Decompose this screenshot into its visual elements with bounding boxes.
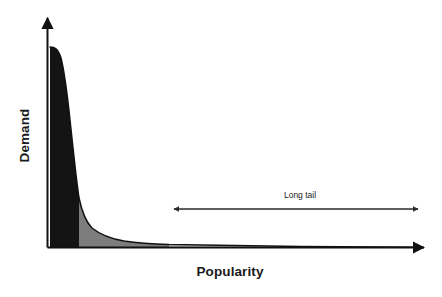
y-axis-label: Demand [17,99,32,173]
x-axis-label: Popularity [175,264,285,279]
chart-plot-area [0,0,442,297]
region-mid [79,198,169,247]
long-tail-chart-figure: Demand Popularity Long tail [0,0,442,297]
long-tail-annotation-label: Long tail [248,190,352,200]
demand-curve [50,47,420,247]
